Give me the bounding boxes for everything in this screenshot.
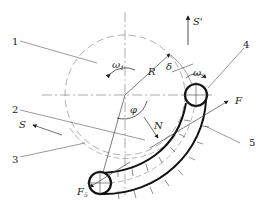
leader-4 [208,48,244,88]
label-normal-force: N [153,120,164,131]
tube-centerline [100,95,196,183]
label-part-3: 3 [12,154,18,165]
label-omega2: ω2 [193,67,205,79]
label-part-1: 1 [12,36,18,47]
s-arrow [33,125,62,135]
label-s-prime: S' [193,16,203,27]
tube-outer-wall [100,100,206,194]
label-s: S [19,119,26,130]
label-force-f5: F5 [76,186,88,198]
label-part-4: 4 [243,39,249,50]
leader-5 [205,126,240,143]
label-part-5: 5 [249,137,255,148]
label-part-2: 2 [12,104,18,115]
label-radius: R [147,66,156,77]
label-omega1: ω1 [112,59,124,71]
delta-dimension [172,64,193,72]
label-phi: φ [130,104,137,115]
label-force-f: F [234,95,243,106]
leader-1 [20,41,97,63]
label-delta: δ [166,61,172,72]
leader-3 [20,143,85,157]
tube-ticks [118,120,209,199]
diagram-canvas: 1 2 3 4 5 ω1 ω2 R δ φ N F F5 S S' [0,0,267,206]
bending-diagram: 1 2 3 4 5 ω1 ω2 R δ φ N F F5 S S' [0,0,267,206]
leader-2 [20,110,145,140]
